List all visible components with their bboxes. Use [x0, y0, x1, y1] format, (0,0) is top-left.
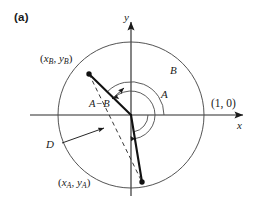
point-b-paren-close: ) [69, 52, 73, 64]
y-axis-label: y [124, 12, 129, 23]
figure-panel: (a) y x (1, 0) (xB, yB) (xA, yA) A B A−B… [0, 0, 265, 219]
point-marker-a [139, 179, 144, 184]
chord-d-label: D [46, 139, 54, 150]
point-a-paren-close: ) [87, 176, 91, 188]
angle-b-label: B [170, 65, 177, 76]
radius-vector-to-point-a [131, 115, 142, 182]
unit-point-label: (1, 0) [211, 98, 236, 110]
point-b-label: (xB, yB) [40, 53, 72, 66]
x-axis-label: x [237, 120, 242, 131]
angle-arc-a [134, 115, 148, 132]
point-a-label: (xA, yA) [58, 177, 90, 190]
unit-circle-diagram [0, 0, 265, 219]
angle-arc-b [107, 82, 164, 115]
angle-difference-right: B [103, 98, 109, 109]
angle-a-label: A [161, 89, 168, 100]
angle-difference-label: A−B [89, 99, 110, 110]
point-marker-b [86, 71, 91, 76]
panel-tag: (a) [14, 12, 29, 24]
leader-chord-d [62, 128, 104, 143]
